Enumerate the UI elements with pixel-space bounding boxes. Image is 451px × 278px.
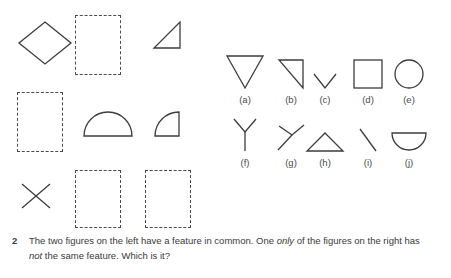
question-emphasis-not: not — [29, 250, 42, 261]
option-h[interactable]: (h) — [302, 107, 348, 169]
option-h-art — [302, 107, 348, 153]
question-number: 2 — [12, 234, 17, 248]
option-j-label: (j) — [386, 157, 432, 169]
option-c-label: (c) — [302, 94, 348, 106]
option-d[interactable]: (d) — [345, 44, 391, 106]
question-emphasis-only: only — [277, 235, 294, 246]
question-caption: 2 The two figures on the left have a fea… — [0, 234, 451, 263]
right-options-panel: (a) (b) (c) (d) — [225, 0, 451, 232]
left-shape-diamond — [17, 20, 73, 66]
option-j-art — [386, 107, 432, 153]
option-e-label: (e) — [386, 94, 432, 106]
left-placeholder-r3c3 — [145, 170, 191, 228]
option-h-label: (h) — [302, 157, 348, 169]
question-text-part-2: of the figures on the right has — [294, 235, 420, 246]
option-d-label: (d) — [345, 94, 391, 106]
left-placeholder-r2c1 — [17, 92, 63, 152]
option-c[interactable]: (c) — [302, 44, 348, 106]
option-a-art — [222, 44, 268, 90]
left-figures-panel — [0, 0, 225, 232]
left-shape-cross-x — [20, 182, 52, 210]
option-f-art — [222, 107, 268, 153]
option-c-art — [302, 44, 348, 90]
option-f-label: (f) — [222, 157, 268, 169]
option-d-art — [345, 44, 391, 90]
option-i[interactable]: (i) — [345, 107, 391, 169]
puzzle-figure: (a) (b) (c) (d) — [0, 0, 451, 232]
option-e[interactable]: (e) — [386, 44, 432, 106]
option-f[interactable]: (f) — [222, 107, 268, 169]
option-i-art — [345, 107, 391, 153]
left-placeholder-r1c2 — [75, 15, 121, 75]
left-shape-quarter-circle — [153, 110, 181, 138]
option-a[interactable]: (a) — [222, 44, 268, 106]
question-text: The two figures on the left have a featu… — [29, 234, 435, 263]
question-text-part-1: The two figures on the left have a featu… — [29, 235, 277, 246]
left-shape-semicircle — [82, 110, 134, 138]
option-j[interactable]: (j) — [386, 107, 432, 169]
option-i-label: (i) — [345, 157, 391, 169]
left-shape-right-triangle — [152, 20, 182, 50]
option-a-label: (a) — [222, 94, 268, 106]
question-text-part-3: the same feature. Which is it? — [42, 250, 170, 261]
option-e-art — [386, 44, 432, 90]
left-placeholder-r3c2 — [75, 170, 121, 228]
